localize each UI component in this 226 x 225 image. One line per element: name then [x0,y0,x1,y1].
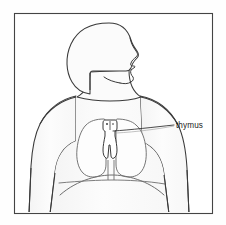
thymus-mark-left [106,123,108,125]
thymus-label: thymus [176,121,203,130]
thymus-mark-right [112,123,114,125]
thymus-diagram: thymus [0,0,226,225]
anatomy-illustration: thymus [0,0,226,225]
